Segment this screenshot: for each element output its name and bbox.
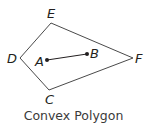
point-label-a: A (34, 54, 44, 69)
vertex-label-f: F (135, 51, 143, 66)
diagram-caption: Convex Polygon (0, 108, 147, 123)
vertex-label-c: C (45, 92, 55, 107)
point-a-dot (45, 58, 49, 62)
segment-ab (47, 54, 87, 60)
point-b-dot (85, 52, 89, 56)
point-label-b: B (90, 46, 99, 61)
vertex-label-e: E (47, 6, 56, 21)
vertex-label-d: D (7, 51, 17, 66)
